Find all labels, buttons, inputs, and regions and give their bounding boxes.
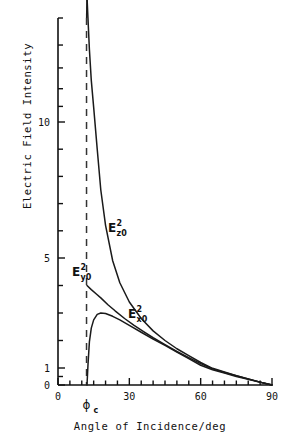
figure-container: Electric Field Intensity Angle of Incide…: [0, 0, 300, 441]
annotation-superscript: 2: [137, 305, 143, 314]
annotation-symbol: E: [108, 221, 116, 235]
annotation-superscript: 2: [81, 263, 87, 272]
critical-angle-subscript: c: [94, 406, 99, 415]
curve-e-x0-2: [87, 313, 272, 385]
annotation-subscript: z0: [117, 229, 128, 238]
annotation-superscript: 2: [117, 219, 123, 228]
chart-canvas: ϕc 015100306090 E2z0E2y0E2x0: [0, 0, 300, 441]
annotation-e-x0-2: E2x0: [128, 305, 148, 325]
y-tick-label: 5: [44, 253, 50, 264]
x-tick-label: 0: [55, 391, 61, 402]
x-tick-label: 90: [266, 391, 278, 402]
x-tick-label: 60: [195, 391, 207, 402]
curve-e-y0-2: [87, 286, 272, 386]
annotation-e-z0-2: E2z0: [108, 219, 127, 239]
x-tick-label: 30: [123, 391, 135, 402]
annotation-subscript: y0: [81, 273, 92, 282]
tick-labels: 015100306090: [38, 117, 278, 402]
annotation-e-y0-2: E2y0: [72, 263, 92, 283]
annotation-subscript: x0: [137, 315, 148, 324]
annotation-symbol: E: [128, 307, 136, 321]
y-tick-label: 0: [44, 380, 50, 391]
curve-e-z0-2: [87, 0, 272, 385]
y-tick-label: 1: [44, 363, 50, 374]
critical-angle-label: ϕ: [83, 398, 91, 412]
y-tick-label: 10: [38, 117, 50, 128]
curve-annotations: E2z0E2y0E2x0: [72, 219, 148, 325]
data-curves: [87, 0, 272, 385]
annotation-symbol: E: [72, 265, 80, 279]
